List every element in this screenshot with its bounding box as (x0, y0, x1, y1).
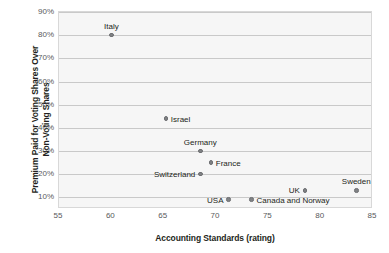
gridline-y-60 (59, 82, 371, 83)
y-tick-label: 30% (20, 146, 54, 155)
x-tick-label: 80 (315, 211, 324, 220)
y-tick-label: 50% (20, 99, 54, 108)
data-label-italy: Italy (104, 22, 119, 31)
gridline-y-80 (59, 35, 371, 36)
data-label-france: France (216, 158, 241, 167)
x-tick-label: 60 (106, 211, 115, 220)
data-label-sweden: Sweden (342, 177, 371, 186)
x-tick-label: 75 (263, 211, 272, 220)
plot-area: ItalyIsraelGermanyFranceSwitzerlandUSACa… (58, 11, 372, 208)
gridline-y-70 (59, 58, 371, 59)
gridline-y-20 (59, 174, 371, 175)
x-axis-tick-labels: 55606570758085 (58, 211, 372, 225)
y-tick-label: 70% (20, 53, 54, 62)
x-tick-label: 65 (158, 211, 167, 220)
data-point-italy[interactable] (109, 33, 114, 38)
gridline-y-50 (59, 105, 371, 106)
data-label-uk: UK (289, 186, 300, 195)
x-tick-label: 55 (54, 211, 63, 220)
y-tick-label: 20% (20, 169, 54, 178)
x-axis-title: Accounting Standards (rating) (58, 233, 372, 243)
data-point-switzerland[interactable] (198, 172, 203, 177)
data-label-israel: Israel (171, 114, 191, 123)
data-label-canada-and-norway: Canada and Norway (257, 195, 330, 204)
gridline-y-40 (59, 128, 371, 129)
y-tick-label: 60% (20, 76, 54, 85)
y-tick-label: 40% (20, 122, 54, 131)
data-label-germany: Germany (184, 138, 217, 147)
data-point-usa[interactable] (226, 197, 231, 202)
y-tick-label: 80% (20, 30, 54, 39)
data-label-usa: USA (207, 195, 223, 204)
scatter-chart: Premium Paid for Voting Shares Over Non-… (0, 0, 389, 253)
y-tick-label: 90% (20, 7, 54, 16)
data-point-canada-and-norway[interactable] (249, 197, 254, 202)
data-label-switzerland: Switzerland (154, 170, 195, 179)
x-tick-label: 85 (368, 211, 377, 220)
data-point-uk[interactable] (303, 188, 308, 193)
data-point-germany[interactable] (198, 149, 203, 154)
gridline-y-90 (59, 12, 371, 13)
data-point-israel[interactable] (164, 116, 169, 121)
gridline-y-30 (59, 151, 371, 152)
y-axis-tick-labels: 90%80%70%60%50%40%30%20%10% (18, 11, 54, 208)
data-point-sweden[interactable] (354, 188, 359, 193)
y-tick-label: 10% (20, 192, 54, 201)
x-tick-label: 70 (211, 211, 220, 220)
data-point-france[interactable] (209, 160, 214, 165)
